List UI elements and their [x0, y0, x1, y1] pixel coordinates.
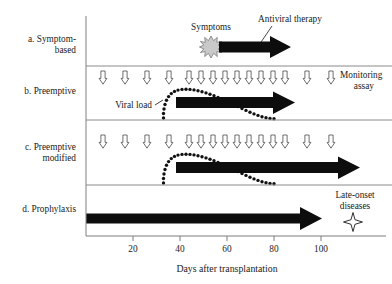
monitoring-assay-row-b — [99, 71, 335, 84]
x-tick-label-100: 100 — [314, 244, 328, 254]
panel-a-label-line2: based — [55, 45, 77, 55]
antiviral-therapy-label-a: Antiviral therapy — [258, 14, 322, 24]
figure-root: a. Symptom- based Symptoms Antiviral the… — [0, 0, 392, 284]
panel-a-label-line1: a. Symptom- — [28, 34, 76, 44]
monitoring-assay-label-line1: Monitoring — [340, 70, 383, 80]
panel-c: c. Preemptive modified — [25, 135, 392, 186]
panel-c-label-line1: c. Preemptive — [25, 142, 76, 152]
late-onset-label-line1: Late-onset — [335, 190, 375, 200]
panel-b-label-line1: b. Preemptive — [24, 86, 76, 96]
x-tick-label-80: 80 — [269, 244, 279, 254]
viral-load-leader-b — [155, 100, 163, 105]
antiviral-therapy-arrow-a — [219, 36, 291, 58]
x-tick-label-40: 40 — [175, 244, 185, 254]
panel-a: a. Symptom- based Symptoms Antiviral the… — [28, 14, 392, 66]
panel-c-label-line2: modified — [42, 153, 76, 163]
antiviral-therapy-arrow-b — [176, 92, 295, 115]
panel-b: b. Preemptive — [24, 70, 392, 121]
panel-d: d. Prophylaxis Late-onset diseases — [22, 190, 375, 232]
monitoring-assay-label-line2: assay — [354, 81, 374, 91]
panel-d-label-line1: d. Prophylaxis — [22, 204, 76, 214]
x-tick-label-60: 60 — [222, 244, 232, 254]
x-axis-title: Days after transplantation — [176, 263, 277, 274]
antiviral-therapy-arrow-c — [176, 157, 360, 180]
x-tick-label-20: 20 — [128, 244, 138, 254]
symptoms-label: Symptoms — [191, 22, 231, 32]
monitoring-assay-row-c — [99, 135, 335, 148]
prophylaxis-arrow-d — [86, 207, 322, 230]
late-onset-star-icon — [344, 213, 363, 232]
late-onset-label-line2: diseases — [340, 201, 371, 211]
viral-load-label-b: Viral load — [115, 100, 152, 110]
